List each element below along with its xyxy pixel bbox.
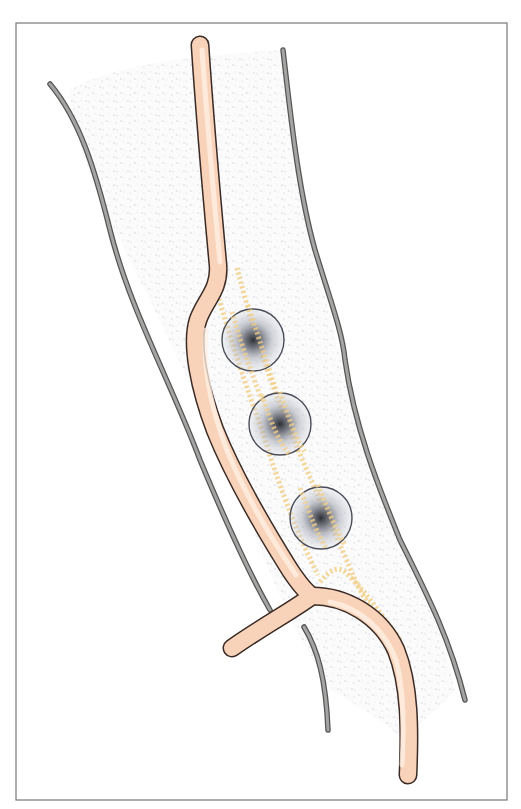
- vessel-illustration: [0, 0, 521, 809]
